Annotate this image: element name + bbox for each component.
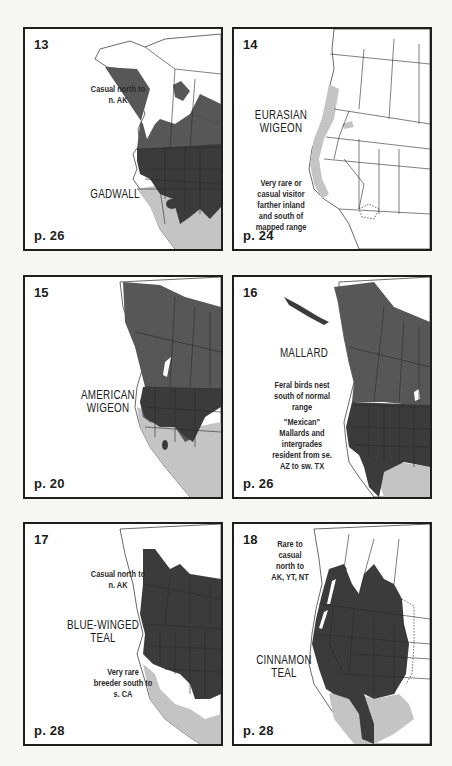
range-note: Feral birds nest south of normal range: [271, 379, 333, 412]
map-panel-cinnamon-teal: 18 Rare to casual north to AK, YT, NT CI…: [232, 522, 432, 746]
range-map-cinnamon-teal: [234, 524, 430, 744]
map-number: 15: [34, 285, 48, 300]
map-panel-blue-winged-teal: 17 Casual north to n. AK BLUE-WINGED TEA…: [23, 522, 223, 746]
range-map-american-wigeon: [25, 277, 221, 497]
range-note: Very rare breeder south to s. CA: [93, 666, 152, 699]
map-number: 14: [243, 37, 257, 52]
range-note: Casual north to n. AK: [91, 83, 146, 105]
species-name: CINNAMON TEAL: [247, 654, 321, 680]
range-note: Casual north to n. AK: [91, 568, 146, 590]
species-name: EURASIAN WIGEON: [244, 109, 318, 135]
page-reference: p. 20: [34, 476, 65, 491]
map-number: 13: [34, 37, 48, 52]
page-reference: p. 24: [243, 228, 274, 243]
map-panel-american-wigeon: 15 AMERICAN WIGEON p. 20: [23, 275, 223, 499]
page-reference: p. 28: [243, 723, 274, 738]
map-number: 16: [243, 285, 257, 300]
species-name: GADWALL: [74, 188, 156, 201]
map-panel-gadwall: 13 Casual north to n. AK GADWALL p. 26: [23, 27, 223, 251]
range-note: "Mexican" Mallards and intergrades resid…: [269, 416, 335, 471]
page-reference: p. 26: [34, 228, 65, 243]
map-panel-eurasian-wigeon: 14 EURASIAN WIGEON Very rare or casual v…: [232, 27, 432, 251]
page-reference: p. 28: [34, 723, 65, 738]
page-reference: p. 26: [243, 476, 274, 491]
range-note: Rare to casual north to AK, YT, NT: [270, 538, 311, 582]
map-number: 17: [34, 532, 48, 547]
range-map-gadwall: [25, 29, 221, 249]
map-panel-mallard: 16 MALLARD Feral birds nest south of nor…: [232, 275, 432, 499]
range-note: Very rare or casual visitor farther inla…: [251, 177, 312, 232]
species-name: BLUE-WINGED TEAL: [62, 619, 144, 645]
species-name: AMERICAN WIGEON: [71, 389, 145, 415]
species-name: MALLARD: [267, 347, 341, 360]
map-number: 18: [243, 532, 257, 547]
